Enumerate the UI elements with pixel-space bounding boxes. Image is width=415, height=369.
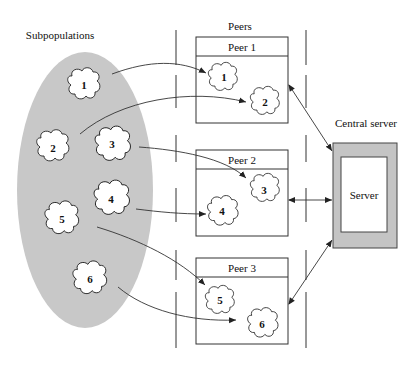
- subpop-cloud-2: 2: [37, 130, 69, 161]
- server-label: Server: [350, 189, 379, 201]
- peer1-cloud-2: 2: [250, 86, 279, 114]
- diagram-canvas: Subpopulations 1 2 3 4 5 6 Peers: [0, 0, 415, 369]
- subpop-cloud-6: 6: [73, 261, 107, 294]
- peer-2-title: Peer 2: [228, 154, 256, 166]
- peer-1-title: Peer 1: [228, 41, 256, 53]
- svg-text:2: 2: [50, 142, 56, 154]
- peer2-cloud-4: 4: [208, 196, 239, 226]
- subpop-cloud-1: 1: [68, 68, 100, 99]
- peer3-cloud-6: 6: [248, 308, 278, 337]
- svg-text:6: 6: [87, 273, 93, 285]
- subpop-cloud-4: 4: [94, 180, 129, 214]
- svg-text:3: 3: [109, 138, 115, 150]
- subpop-cloud-3: 3: [95, 126, 130, 160]
- svg-text:3: 3: [261, 184, 267, 196]
- subpop-cloud-5: 5: [45, 201, 79, 234]
- svg-text:6: 6: [259, 318, 265, 330]
- svg-text:5: 5: [59, 213, 65, 225]
- central-server-box: Server: [333, 143, 397, 248]
- peer1-cloud-1: 1: [208, 62, 237, 90]
- svg-text:5: 5: [217, 294, 223, 306]
- peers-label: Peers: [228, 20, 252, 32]
- svg-text:1: 1: [221, 71, 227, 83]
- svg-text:1: 1: [81, 79, 87, 91]
- central-server-label: Central server: [335, 117, 397, 129]
- svg-text:2: 2: [262, 96, 268, 108]
- svg-text:4: 4: [219, 205, 225, 217]
- peer-3-title: Peer 3: [228, 262, 256, 274]
- peer2-cloud-3: 3: [250, 173, 279, 201]
- server-sync-arrows: [289, 85, 332, 304]
- subpopulations-label: Subpopulations: [26, 29, 94, 41]
- svg-text:4: 4: [108, 193, 114, 205]
- peer3-cloud-5: 5: [205, 285, 234, 313]
